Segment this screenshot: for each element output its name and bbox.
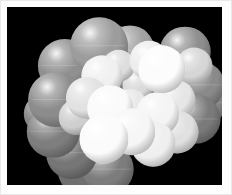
atom-sphere [79,114,128,163]
render-canvas[interactable] [7,7,222,185]
molecule-model [7,7,222,185]
molecular-structure-viewer[interactable] [0,0,232,195]
